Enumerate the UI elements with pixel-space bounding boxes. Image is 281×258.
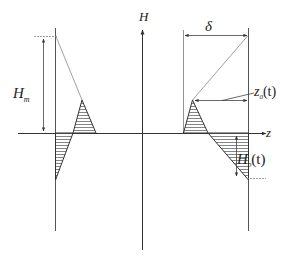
left-diagonal-line [56,37,82,101]
diagram-canvas: H z Hm δ z0(t) H0(t) [0,0,281,258]
right-diagonal-line [193,36,249,101]
right-upper-pressure-triangle [184,100,209,133]
z0-label: z0(t) [253,84,277,101]
hm-label: Hm [12,85,30,104]
z0-leader-line [222,93,254,101]
h0-label: H0(t) [236,151,266,169]
left-lower-pressure-triangle [56,133,74,180]
delta-label: δ [205,18,213,34]
h-axis-label: H [138,9,149,24]
z-axis-label: z [265,125,271,140]
left-upper-pressure-triangle [73,100,96,133]
